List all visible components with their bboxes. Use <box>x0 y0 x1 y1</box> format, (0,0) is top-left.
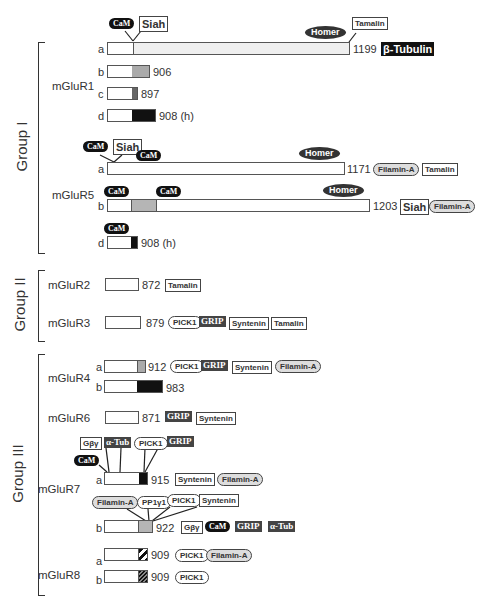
length-label: 872 <box>142 279 160 292</box>
grip-badge: GRIP <box>199 316 226 327</box>
receptor-label-mglur6: mGluR6 <box>48 412 90 425</box>
receptor-label-mglur7: mGluR7 <box>38 483 80 496</box>
homer-badge: Homer <box>305 26 346 39</box>
group-ii-label: Group II <box>11 277 28 331</box>
tamalin-badge: Tamalin <box>271 317 307 330</box>
syntenin-badge: Syntenin <box>232 361 272 374</box>
receptor-label-mglur2: mGluR2 <box>48 279 90 292</box>
isoform-label: c <box>98 88 104 101</box>
isoform-label: b <box>98 66 104 79</box>
cam-badge: CaM <box>104 186 129 197</box>
grip-badge: GRIP <box>201 360 228 371</box>
group-i-bracket <box>38 42 45 254</box>
mglur5a-bar <box>107 162 345 175</box>
receptor-label-mglur1: mGluR1 <box>52 80 94 93</box>
length-label: 983 <box>166 382 184 395</box>
cam-badge: CaM <box>156 186 181 197</box>
pick1-badge: PICK1 <box>167 494 201 507</box>
filamin-a-badge: Filamin-A <box>92 496 138 509</box>
isoform-label: b <box>96 522 102 535</box>
length-label: 906 <box>153 66 171 79</box>
length-label: 922 <box>156 522 174 535</box>
cam-badge: CaM <box>83 141 108 152</box>
tamalin-badge: Tamalin <box>165 279 201 292</box>
homer-badge: Homer <box>299 147 340 160</box>
siah-badge: Siah <box>139 16 168 32</box>
syntenin-badge: Syntenin <box>196 412 236 425</box>
mglur7a-bar <box>104 472 148 485</box>
isoform-label: d <box>98 110 104 123</box>
cam-badge: CaM <box>74 455 99 466</box>
pp1-gamma1-badge: PP1γ1 <box>137 496 171 509</box>
mglur1a-bar <box>107 42 350 55</box>
grip-badge: GRIP <box>235 521 262 532</box>
grip-badge: GRIP <box>165 411 192 422</box>
isoform-label: b <box>98 200 104 213</box>
syntenin-badge: Syntenin <box>229 317 269 330</box>
siah-badge: Siah <box>400 199 429 215</box>
filamin-a-badge: Filamin-A <box>206 549 252 562</box>
length-label: 879 <box>146 317 164 330</box>
filamin-a-badge: Filamin-A <box>275 360 321 373</box>
filamin-a-badge: Filamin-A <box>217 473 263 486</box>
pick1-badge: PICK1 <box>175 549 209 562</box>
mglur5d-bar <box>107 236 138 249</box>
alpha-tubulin-badge: α-Tub <box>104 437 131 448</box>
isoform-label: b <box>96 574 102 587</box>
mglur8a-bar <box>104 548 148 561</box>
group-iii-label: Group III <box>9 444 26 502</box>
isoform-label: a <box>96 361 102 374</box>
mglur7b-bar <box>104 520 153 533</box>
receptor-label-mglur8: mGluR8 <box>38 569 80 582</box>
mglur1c-bar <box>107 87 138 100</box>
mglur2-bar <box>105 278 139 291</box>
beta-tubulin-badge: β-Tubulin <box>381 42 434 56</box>
mglur4b-bar <box>104 380 163 393</box>
pick1-badge: PICK1 <box>168 316 202 329</box>
g-beta-gamma-badge: Gβγ <box>181 521 203 534</box>
length-label: 908 (h) <box>141 237 176 250</box>
mglur8b-bar <box>104 570 148 583</box>
grip-badge: GRIP <box>167 436 194 447</box>
alpha-tubulin-badge: α-Tub <box>268 521 295 532</box>
pick1-badge: PICK1 <box>170 360 204 373</box>
mglur1d-bar <box>107 109 156 122</box>
tamalin-badge: Tamalin <box>352 17 388 30</box>
length-label: 1203 <box>373 200 397 213</box>
isoform-label: a <box>98 163 104 176</box>
isoform-label: a <box>96 474 102 487</box>
length-label: 915 <box>151 474 169 487</box>
length-label: 897 <box>141 88 159 101</box>
length-label: 1199 <box>353 43 377 56</box>
filamin-a-badge: Filamin-A <box>429 200 475 213</box>
cam-badge: CaM <box>205 521 230 532</box>
group-iii-bracket <box>38 354 45 596</box>
length-label: 908 (h) <box>159 110 194 123</box>
g-beta-gamma-badge: Gβγ <box>80 437 102 450</box>
isoform-label: a <box>98 43 104 56</box>
mglur5b-bar <box>107 199 370 212</box>
length-label: 909 <box>151 549 169 562</box>
length-label: 912 <box>148 361 166 374</box>
cam-badge: CaM <box>109 18 134 29</box>
tamalin-badge: Tamalin <box>422 163 458 176</box>
mglur3-bar <box>105 316 141 329</box>
filamin-a-badge: Filamin-A <box>373 163 419 176</box>
receptor-label-mglur5: mGluR5 <box>52 189 94 202</box>
pick1-badge: PICK1 <box>175 571 209 584</box>
isoform-label: a <box>96 555 102 568</box>
homer-badge: Homer <box>323 184 364 197</box>
isoform-label: d <box>98 237 104 250</box>
mglur4a-bar <box>104 360 146 373</box>
length-label: 1171 <box>347 163 371 176</box>
mglur1b-bar <box>107 65 150 78</box>
syntenin-badge: Syntenin <box>199 494 239 507</box>
length-label: 909 <box>151 571 169 584</box>
receptor-label-mglur3: mGluR3 <box>48 317 90 330</box>
pick1-badge: PICK1 <box>134 437 168 450</box>
cam-badge: CaM <box>136 150 161 161</box>
group-i-label: Group I <box>13 121 30 171</box>
group-ii-bracket <box>38 270 45 342</box>
syntenin-badge: Syntenin <box>175 473 215 486</box>
receptor-label-mglur4: mGluR4 <box>48 372 90 385</box>
